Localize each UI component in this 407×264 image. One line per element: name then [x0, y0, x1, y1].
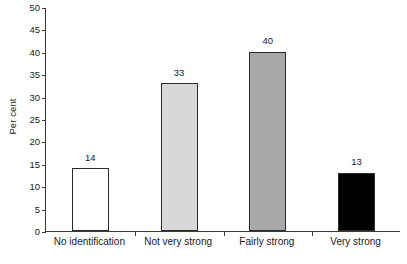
bars-layer: 14334013: [46, 8, 400, 231]
bar[interactable]: [338, 173, 375, 231]
y-axis-tick-label: 0: [35, 227, 40, 237]
y-axis-tick-label: 5: [35, 205, 40, 215]
y-axis-title-label: Per cent: [7, 98, 18, 134]
bar-value-label: 14: [72, 153, 109, 163]
bar-value-label: 13: [338, 157, 375, 167]
y-axis-tick-label: 45: [29, 26, 40, 36]
y-axis-tick-label: 20: [29, 138, 40, 148]
y-axis-tick-mark: [42, 98, 46, 99]
y-axis-tick-label: 50: [29, 3, 40, 13]
y-axis-tick-mark: [42, 120, 46, 121]
bar[interactable]: [161, 83, 198, 231]
y-axis-tick-mark: [42, 232, 46, 233]
x-axis-category-label: Not very strong: [134, 236, 223, 247]
x-axis-category-label: No identification: [45, 236, 134, 247]
bar-value-label: 33: [161, 68, 198, 78]
y-axis-tick-label: 35: [29, 70, 40, 80]
x-axis-category-labels: No identificationNot very strongFairly s…: [45, 236, 400, 258]
y-axis-tick-labels: 05101520253035404550: [20, 8, 42, 232]
y-axis-tick-mark: [42, 187, 46, 188]
plot-area: 14334013: [45, 8, 400, 232]
x-axis-category-label: Fairly strong: [223, 236, 312, 247]
bar[interactable]: [249, 52, 286, 231]
bar-group[interactable]: 13: [338, 7, 375, 231]
bar[interactable]: [72, 168, 109, 231]
x-axis-category-label: Very strong: [311, 236, 400, 247]
y-axis-tick-mark: [42, 210, 46, 211]
y-axis-tick-label: 30: [29, 93, 40, 103]
y-axis-tick-label: 15: [29, 160, 40, 170]
bar-group[interactable]: 14: [72, 7, 109, 231]
y-axis-tick-label: 40: [29, 48, 40, 58]
y-axis-tick-label: 10: [29, 182, 40, 192]
y-axis-tick-mark: [42, 8, 46, 9]
y-axis-tick-label: 25: [29, 115, 40, 125]
y-axis-tick-mark: [42, 142, 46, 143]
y-axis-tick-mark: [42, 53, 46, 54]
bar-chart: Per cent 05101520253035404550 14334013 N…: [0, 0, 407, 264]
y-axis-tick-mark: [42, 75, 46, 76]
bar-value-label: 40: [249, 36, 286, 46]
bar-group[interactable]: 40: [249, 7, 286, 231]
y-axis-tick-mark: [42, 165, 46, 166]
bar-group[interactable]: 33: [161, 7, 198, 231]
y-axis-tick-mark: [42, 30, 46, 31]
y-axis-title: Per cent: [3, 0, 21, 232]
